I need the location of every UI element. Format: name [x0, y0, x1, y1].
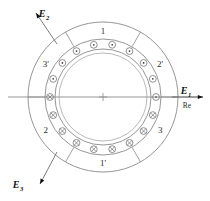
sector-label-3p: 3' — [43, 59, 50, 69]
conductor-out-16 — [59, 60, 66, 67]
sector-label-1p: 1' — [100, 158, 107, 168]
phasor-label-e1: E1 — [180, 85, 191, 98]
conductor-out-0 — [90, 41, 97, 48]
conductor-out-1 — [109, 41, 116, 48]
phasor-arrowhead-e3 — [40, 178, 44, 184]
current-out-dot-icon — [155, 96, 157, 98]
current-out-dot-icon — [152, 78, 154, 80]
phasor-e2: E2 — [36, 8, 57, 44]
sector-divider-2 — [66, 32, 75, 47]
phasor-base-e2: E — [38, 8, 46, 19]
conductor-in-8 — [126, 139, 133, 146]
current-out-dot-icon — [93, 44, 95, 46]
sector-label-2: 2 — [44, 125, 49, 135]
conductor-in-11 — [73, 139, 80, 146]
current-out-dot-icon — [143, 62, 145, 64]
conductor-out-17 — [73, 48, 80, 55]
figure-canvas: 13'21'32' E1ReE2E3 — [0, 0, 210, 201]
conductor-in-10 — [90, 146, 97, 153]
conductor-in-6 — [149, 112, 156, 119]
conductor-out-3 — [140, 60, 147, 67]
phasor-subscript-e2: 2 — [45, 14, 50, 21]
sector-label-1: 1 — [101, 26, 106, 36]
phasor-line-e3 — [40, 152, 57, 184]
conductor-in-9 — [109, 146, 116, 153]
sector-divider-5 — [132, 147, 141, 162]
machine-cross-section-diagram: 13'21'32' E1ReE2E3 — [0, 0, 210, 201]
phasor-label-e2: E2 — [38, 8, 50, 21]
phasor-subscript-e1: 1 — [188, 91, 191, 98]
conductor-in-13 — [50, 112, 57, 119]
sector-label-2p: 2' — [157, 59, 164, 69]
real-axis-label: Re — [183, 101, 192, 110]
phasor-base-e1: E — [180, 85, 188, 96]
phasor-label-e3: E3 — [12, 179, 24, 192]
conductor-out-4 — [149, 75, 156, 82]
conductor-in-12 — [59, 128, 66, 135]
sector-divider-1 — [132, 32, 141, 47]
phasor-e1: E1Re — [172, 85, 203, 110]
sector-divider-4 — [66, 147, 75, 162]
phasor-arrows: E1ReE2E3 — [12, 8, 203, 192]
current-out-dot-icon — [62, 62, 64, 64]
current-out-dot-icon — [111, 44, 113, 46]
current-out-dot-icon — [129, 50, 131, 52]
current-out-dot-icon — [52, 78, 54, 80]
phasor-subscript-e3: 3 — [19, 185, 24, 192]
conductor-in-7 — [140, 128, 147, 135]
phasor-base-e3: E — [12, 179, 20, 190]
sector-label-3: 3 — [158, 125, 163, 135]
current-out-dot-icon — [76, 50, 78, 52]
conductor-out-15 — [50, 75, 57, 82]
conductor-out-2 — [126, 48, 133, 55]
phasor-e3: E3 — [12, 152, 57, 192]
phasor-arrowhead-e1 — [198, 95, 203, 99]
center-mark — [99, 93, 107, 101]
